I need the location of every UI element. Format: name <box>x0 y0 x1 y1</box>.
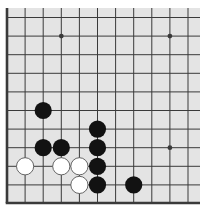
black-stone <box>89 139 106 156</box>
star-point <box>59 34 64 39</box>
star-point <box>168 34 173 39</box>
black-stone <box>89 158 106 175</box>
white-stone <box>71 176 88 193</box>
white-stone <box>17 158 34 175</box>
black-stone <box>125 176 142 193</box>
black-stone <box>89 176 106 193</box>
white-stone <box>53 158 70 175</box>
black-stone <box>89 121 106 138</box>
black-stone <box>35 102 52 119</box>
star-point <box>168 145 173 150</box>
go-board[interactable] <box>0 0 200 209</box>
black-stone <box>35 139 52 156</box>
black-stone <box>53 139 70 156</box>
white-stone <box>71 158 88 175</box>
